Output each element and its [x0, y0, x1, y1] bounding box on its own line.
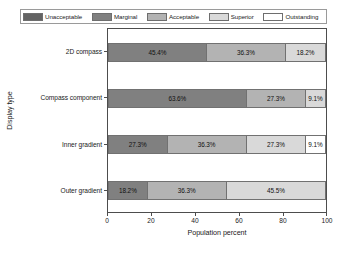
bar-segment-value-label: 45.4% — [149, 49, 167, 56]
legend-swatch-icon — [23, 13, 43, 21]
y-axis-tick-mark — [104, 51, 107, 52]
x-axis-tick-mark — [151, 213, 152, 216]
bar-segment-value-label: 27.3% — [129, 141, 147, 148]
bar-row: 18.2%36.3%45.5% — [108, 181, 326, 200]
chart-legend: UnacceptableMarginalAcceptableSuperiorOu… — [20, 9, 327, 24]
bar-segment[interactable]: 18.2% — [108, 181, 148, 200]
bar-segment[interactable]: 45.4% — [108, 43, 207, 62]
bar-segment[interactable]: 27.3% — [247, 135, 307, 154]
legend-item-label: Superior — [231, 13, 254, 20]
y-axis-tick-label: Inner gradient — [62, 140, 102, 147]
bar-segment[interactable]: 63.6% — [108, 89, 247, 108]
bar-row: 63.6%27.3%9.1% — [108, 89, 326, 108]
x-axis-tick-mark — [326, 213, 327, 216]
x-axis-tick-mark — [283, 213, 284, 216]
legend-item[interactable]: Superior — [207, 10, 262, 23]
bar-segment-value-label: 36.3% — [237, 49, 255, 56]
y-axis-tick-label: 2D compass — [66, 48, 102, 55]
bar-segment[interactable]: 9.1% — [306, 89, 326, 108]
bar-series-container: 45.4%36.3%18.2%63.6%27.3%9.1%27.3%36.3%2… — [108, 29, 326, 212]
y-axis-tick-mark — [104, 97, 107, 98]
x-axis-tick-mark — [239, 213, 240, 216]
bar-segment-value-label: 27.3% — [267, 141, 285, 148]
y-axis-tick-labels: 2D compassCompass componentInner gradien… — [0, 28, 107, 213]
bar-segment[interactable]: 27.3% — [108, 135, 168, 154]
y-axis-title: Display type — [5, 71, 14, 151]
legend-item[interactable]: Outstanding — [261, 10, 326, 23]
legend-item-label: Unacceptable — [45, 13, 82, 20]
y-axis-tick-label: Compass component — [41, 94, 102, 101]
chart-figure: UnacceptableMarginalAcceptableSuperiorOu… — [0, 0, 343, 262]
x-axis-tick-label: 80 — [279, 217, 286, 224]
bar-segment[interactable]: 36.3% — [148, 181, 227, 200]
bar-segment-value-label: 45.5% — [267, 187, 285, 194]
bar-segment[interactable]: 36.3% — [168, 135, 247, 154]
x-axis-tick-label: 60 — [235, 217, 242, 224]
bar-row: 27.3%36.3%27.3%9.1% — [108, 135, 326, 154]
legend-item[interactable]: Acceptable — [145, 10, 207, 23]
bar-segment[interactable]: 45.5% — [227, 181, 326, 200]
bar-segment-value-label: 36.3% — [178, 187, 196, 194]
bar-segment[interactable]: 36.3% — [207, 43, 286, 62]
x-axis-tick-label: 0 — [105, 217, 109, 224]
plot-area: 45.4%36.3%18.2%63.6%27.3%9.1%27.3%36.3%2… — [107, 28, 327, 213]
bar-segment-value-label: 63.6% — [168, 95, 186, 102]
bar-segment-value-label: 27.3% — [267, 95, 285, 102]
y-axis-tick-label: Outer gradient — [61, 186, 102, 193]
bar-row: 45.4%36.3%18.2% — [108, 43, 326, 62]
x-axis-title: Population percent — [107, 228, 327, 237]
x-axis-tick-mark — [107, 213, 108, 216]
legend-swatch-icon — [92, 13, 112, 21]
legend-item[interactable]: Unacceptable — [21, 10, 90, 23]
legend-swatch-icon — [209, 13, 229, 21]
x-axis-tick-label: 100 — [321, 217, 332, 224]
bar-segment-value-label: 36.3% — [198, 141, 216, 148]
legend-item-label: Outstanding — [285, 13, 318, 20]
x-axis-tick-label: 40 — [191, 217, 198, 224]
legend-swatch-icon — [147, 13, 167, 21]
bar-segment-value-label: 9.1% — [308, 141, 322, 148]
x-axis-tick-mark — [195, 213, 196, 216]
legend-item[interactable]: Marginal — [90, 10, 145, 23]
y-axis-tick-mark — [104, 144, 107, 145]
legend-item-label: Marginal — [114, 13, 137, 20]
bar-segment-value-label: 9.1% — [308, 95, 322, 102]
legend-swatch-icon — [263, 13, 283, 21]
bar-segment-value-label: 18.2% — [119, 187, 137, 194]
bar-segment[interactable]: 9.1% — [306, 135, 326, 154]
bar-segment[interactable]: 18.2% — [286, 43, 326, 62]
x-axis-tick-label: 20 — [147, 217, 154, 224]
bar-segment[interactable]: 27.3% — [247, 89, 307, 108]
y-axis-tick-mark — [104, 190, 107, 191]
legend-item-label: Acceptable — [169, 13, 199, 20]
bar-segment-value-label: 18.2% — [296, 49, 314, 56]
